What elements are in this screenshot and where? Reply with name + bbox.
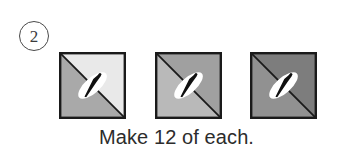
quilt-unit-2-graphic xyxy=(155,52,222,119)
quilt-unit-1-graphic xyxy=(59,52,126,119)
quilt-unit-3 xyxy=(250,52,317,119)
step-number-label: 2 xyxy=(30,27,39,44)
step-number-badge: 2 xyxy=(19,21,49,51)
instruction-figure: 2 xyxy=(0,0,353,157)
quilt-unit-3-graphic xyxy=(250,52,317,119)
figure-caption: Make 12 of each. xyxy=(0,124,353,150)
unit-diagram-row xyxy=(59,52,321,119)
quilt-unit-1 xyxy=(59,52,126,119)
quilt-unit-2 xyxy=(155,52,222,119)
